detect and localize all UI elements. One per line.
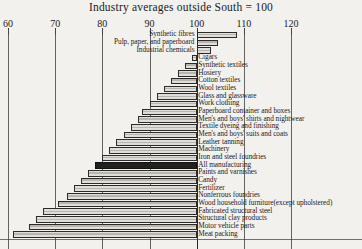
bar-row: Wool textiles (0, 85, 362, 93)
chart-baseline (0, 239, 362, 240)
bar (36, 216, 196, 223)
bar-row: Machinery (0, 147, 362, 155)
bar-row: Leather tanning (0, 139, 362, 147)
bar (138, 116, 197, 123)
bar (157, 93, 197, 100)
bar-row: Industrial chemicals (0, 47, 362, 55)
bar-row: Wood household furniture(except upholste… (0, 200, 362, 208)
bar-row: Synthetic textiles (0, 62, 362, 70)
bar (109, 147, 196, 154)
bar (171, 78, 197, 85)
bar-row: Motor vehicle parts (0, 223, 362, 231)
bar (67, 193, 197, 200)
bar (88, 170, 196, 177)
bar (150, 101, 197, 108)
bar (124, 132, 197, 139)
bar-row: Work clothing (0, 101, 362, 109)
bar-row: Glass and glassware (0, 93, 362, 101)
chart-container: Industry averages outside South = 100 60… (0, 0, 362, 249)
bar-row: Paints and varnishes (0, 170, 362, 178)
bar (131, 124, 197, 131)
bar (81, 178, 197, 185)
chart-title: Industry averages outside South = 100 (0, 1, 362, 13)
bar-row: Men's and boys' shirts and nightwear (0, 116, 362, 124)
bar (58, 201, 197, 208)
bar (164, 86, 197, 93)
bar-row: Fertilizer (0, 185, 362, 193)
bar (13, 231, 197, 238)
bar (197, 40, 218, 47)
bar-row: Paperboard container and boxes (0, 108, 362, 116)
bar (197, 32, 237, 39)
bar-row: Cotton textiles (0, 78, 362, 86)
bar (178, 70, 197, 77)
bar (74, 185, 197, 192)
bar-row: Fabricated structural steel (0, 208, 362, 216)
bar-row: Structural clay products (0, 216, 362, 224)
bar-row: All manufacturing (0, 162, 362, 170)
bar (43, 208, 196, 215)
bar-row: Textile dyeing and finishing (0, 124, 362, 132)
bar-row: Candy (0, 177, 362, 185)
bar-row: Meat packing (0, 231, 362, 239)
bar (142, 109, 196, 116)
bar (185, 63, 197, 70)
bar-row: Iron and steel foundries (0, 154, 362, 162)
bar (192, 55, 197, 62)
bar (95, 162, 196, 169)
bar (116, 139, 196, 146)
plot-area: Synthetic fibresPulp, paper, and paperbo… (0, 30, 362, 249)
bar-category-label: Meat packing (198, 230, 237, 238)
bar-row: Men's and boys' suits and coats (0, 131, 362, 139)
bar-row: Hosiery (0, 70, 362, 78)
bar (29, 224, 196, 231)
bar-category-label: Industrial chemicals (136, 46, 194, 54)
bar-row: Cigars (0, 55, 362, 63)
bar (102, 155, 196, 162)
